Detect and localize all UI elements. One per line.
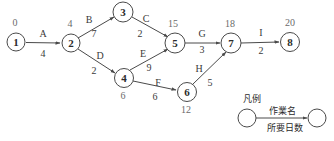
node-time-4: 6 xyxy=(121,91,126,101)
edge-label-A: A xyxy=(39,29,46,39)
node-label-6: 6 xyxy=(184,87,190,98)
node-time-1: 0 xyxy=(13,18,18,28)
node-label-4: 4 xyxy=(121,73,127,84)
edge-duration-A: 4 xyxy=(41,49,46,59)
node-label-3: 3 xyxy=(120,7,126,18)
edge-duration-G: 3 xyxy=(200,45,205,55)
node-label-5: 5 xyxy=(172,38,178,49)
node-time-7: 18 xyxy=(225,19,235,29)
edge-I xyxy=(241,42,279,43)
edge-label-D: D xyxy=(96,51,103,61)
edge-label-G: G xyxy=(198,29,205,39)
legend-activity-name-label: 作業名 xyxy=(269,107,296,116)
node-time-6: 12 xyxy=(181,105,191,115)
edge-duration-C: 2 xyxy=(138,29,143,39)
legend-node-start-circle xyxy=(238,109,256,127)
edge-duration-E: 9 xyxy=(147,63,152,73)
edge-label-E: E xyxy=(140,49,146,59)
node-label-8: 8 xyxy=(287,37,293,48)
edge-duration-F: 6 xyxy=(153,92,158,102)
node-label-1: 1 xyxy=(13,37,19,48)
edge-label-H: H xyxy=(195,64,202,74)
node-time-2: 4 xyxy=(68,19,73,29)
edge-label-F: F xyxy=(155,78,161,88)
node-time-5: 15 xyxy=(168,19,178,29)
edge-duration-D: 2 xyxy=(92,66,97,76)
edge-label-B: B xyxy=(86,15,93,25)
network-diagram-canvas: 1 2 3 4 5 6 7 8 0 4 6 15 12 18 20 A B C … xyxy=(0,0,334,141)
edge-duration-I: 2 xyxy=(259,46,264,56)
legend-node-end-circle xyxy=(308,109,326,127)
edge-label-C: C xyxy=(143,14,150,24)
edge-A xyxy=(26,43,60,44)
legend-duration-label: 所要日数 xyxy=(267,124,303,133)
node-time-8: 20 xyxy=(285,18,295,28)
node-label-2: 2 xyxy=(68,38,74,49)
diagram-svg xyxy=(0,0,334,141)
node-label-7: 7 xyxy=(228,38,234,49)
edge-duration-H: 5 xyxy=(208,78,213,88)
legend-title: 凡例 xyxy=(243,95,261,104)
edge-label-I: I xyxy=(259,28,262,38)
edge-duration-B: 7 xyxy=(92,29,97,39)
